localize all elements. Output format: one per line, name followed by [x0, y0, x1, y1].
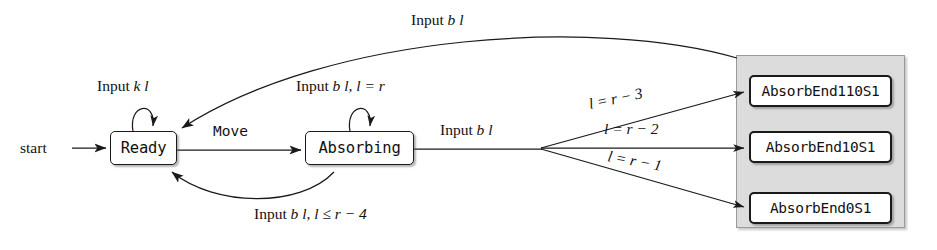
state-absorbend0s1[interactable]: AbsorbEnd0S1 [749, 192, 892, 224]
state-absorbend10s1[interactable]: AbsorbEnd10S1 [749, 131, 892, 163]
state-absorbend110s1-label: AbsorbEnd110S1 [761, 83, 879, 99]
edge-label-move: Move [213, 124, 248, 139]
edge-top-return-to-ready [182, 37, 737, 128]
edge-label-absorbing-self-prefix: Input [296, 77, 329, 94]
edge-label-to-end-10: l = r − 2 [604, 121, 659, 137]
state-absorbend10s1-label: AbsorbEnd10S1 [766, 139, 876, 155]
state-absorbend0s1-label: AbsorbEnd0S1 [770, 200, 871, 216]
edge-label-to-end-10-expr: l = r − 2 [604, 120, 659, 137]
edge-label-bottom-return-prefix: Input [254, 205, 287, 222]
state-absorbing[interactable]: Absorbing [305, 131, 414, 165]
edge-label-top-return-prefix: Input [411, 11, 444, 28]
start-label: start [20, 140, 47, 156]
edge-absorbing-self-loop [349, 108, 370, 131]
state-ready[interactable]: Ready [110, 131, 177, 165]
edge-label-top-return: Input b l [411, 12, 464, 28]
state-absorbing-label: Absorbing [318, 139, 400, 157]
edge-label-top-return-expr: b l [448, 11, 464, 28]
edge-label-ready-self: Input k l [97, 78, 149, 94]
edge-ready-self-loop [132, 108, 153, 131]
state-ready-label: Ready [121, 139, 167, 157]
edge-label-absorbing-self: Input b l, l = r [296, 78, 385, 94]
edge-label-absorbing-self-expr: b l, l = r [333, 77, 385, 94]
state-diagram: Ready Absorbing AbsorbEnd110S1 AbsorbEnd… [0, 0, 937, 250]
edge-label-bottom-return: Input b l, l ≤ r − 4 [254, 206, 367, 222]
state-absorbend110s1[interactable]: AbsorbEnd110S1 [749, 75, 892, 107]
edge-label-ready-self-expr: k l [134, 77, 149, 94]
edge-label-absorbing-out-expr: b l [477, 121, 493, 138]
edge-label-ready-self-prefix: Input [97, 77, 130, 94]
edge-bottom-return-to-ready [172, 172, 334, 199]
edge-label-absorbing-out-prefix: Input [440, 121, 473, 138]
edge-label-bottom-return-expr: b l, l ≤ r − 4 [291, 205, 367, 222]
edge-label-absorbing-out: Input b l [440, 122, 493, 138]
